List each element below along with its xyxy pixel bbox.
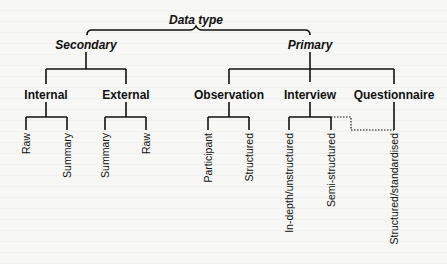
branch-label-primary: Primary [288,38,333,52]
branch-label-secondary: Secondary [55,38,116,52]
dotted-link [331,117,394,130]
node-internal: Internal [24,88,67,102]
leaf-interview-in-depth: In-depth/unstructured [283,133,295,233]
leaf-external-raw: Raw [140,133,152,154]
node-questionnaire: Questionnaire [354,88,435,102]
leaf-external-summary: Summary [99,133,111,178]
node-observation: Observation [194,88,264,102]
leaf-interview-semi-structured: Semi-structured [325,133,337,207]
leaf-questionnaire-structured: Structured/standardised [388,133,400,244]
root-label-data-type: Data type [169,13,223,27]
leaf-internal-raw: Raw [20,133,32,154]
data-type-brace [87,26,310,35]
leaf-observation-structured: Structured [243,133,255,181]
leaf-internal-summary: Summary [61,133,73,178]
node-external: External [102,88,149,102]
node-interview: Interview [284,88,336,102]
leaf-observation-participant: Participant [202,133,214,183]
